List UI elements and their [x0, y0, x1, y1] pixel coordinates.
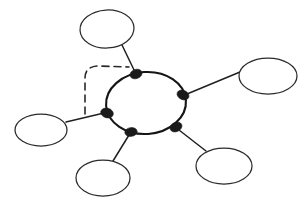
satellite-top-node: [79, 9, 135, 50]
satellite-bottom-left-node: [76, 160, 130, 196]
edge-hub-to-satellite-bottom-left: [113, 135, 129, 161]
satellite-bottom-right-node: [196, 148, 252, 184]
edge-hub-to-satellite-right: [187, 72, 240, 94]
satellite-right-node: [239, 58, 297, 94]
satellite-left-node: [15, 114, 67, 146]
edge-satellite-top-to-hub: [122, 45, 135, 72]
network-diagram-svg: [0, 0, 307, 205]
edge-hub-to-satellite-bottom-right: [179, 130, 206, 151]
diagram-canvas: [0, 0, 307, 205]
